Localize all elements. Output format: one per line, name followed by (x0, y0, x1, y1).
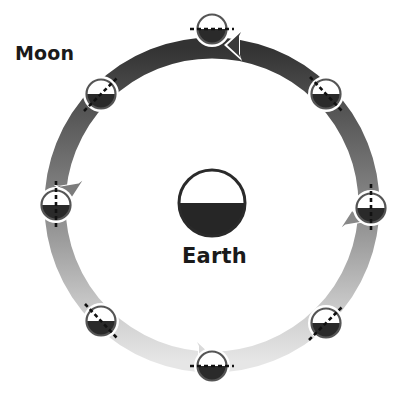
earth (178, 170, 246, 243)
moon-lower-right (308, 305, 344, 341)
moon-label: Moon (15, 42, 74, 64)
moon-orbit-diagram: Moon Earth (0, 0, 408, 396)
earth-label: Earth (182, 244, 247, 268)
moon-upper-right (308, 76, 344, 112)
moon-upper-left (83, 76, 119, 112)
moon-lower-left (83, 303, 119, 339)
